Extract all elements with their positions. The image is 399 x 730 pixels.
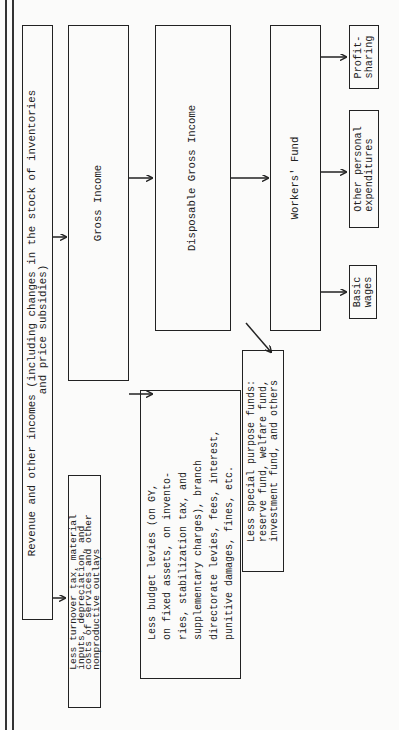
less-turnover-label: Less turnover tax, material inputs, depr… — [69, 514, 99, 669]
gross-income-box: Gross Income — [68, 25, 129, 381]
disposable-gross-income-box: Disposable Gross Income — [155, 25, 231, 331]
less-special-purpose-box: Less special purpose funds: reserve fund… — [242, 350, 284, 572]
less-special-purpose-label: Less special purpose funds: reserve fund… — [246, 380, 281, 542]
basic-wages-box: Basic wages — [349, 265, 377, 319]
revenue-label: Revenue and other incomes (including cha… — [26, 89, 49, 556]
less-budget-levies-box: Less budget levies (on GY, on fixed asse… — [140, 390, 241, 679]
workers-fund-box: Workers' Fund — [270, 25, 321, 331]
page-margin-line — [5, 0, 7, 730]
page-margin-line — [12, 0, 14, 730]
arrow-disposable-to-special-purpose — [246, 323, 271, 352]
less-budget-levies-label: Less budget levies (on GY, on fixed asse… — [144, 429, 236, 639]
other-personal-expenditures-label: Other personal expenditures — [353, 126, 375, 212]
gross-income-label: Gross Income — [93, 165, 105, 241]
disposable-gross-income-label: Disposable Gross Income — [187, 105, 199, 251]
revenue-box: Revenue and other incomes (including cha… — [22, 25, 53, 620]
other-personal-expenditures-box: Other personal expenditures — [349, 110, 379, 228]
less-turnover-box: Less turnover tax, material inputs, depr… — [68, 475, 101, 708]
workers-fund-label: Workers' Fund — [290, 137, 302, 220]
profit-sharing-box: Profit- sharing — [349, 25, 379, 89]
profit-sharing-label: Profit- sharing — [353, 36, 375, 79]
basic-wages-label: Basic wages — [352, 277, 374, 308]
